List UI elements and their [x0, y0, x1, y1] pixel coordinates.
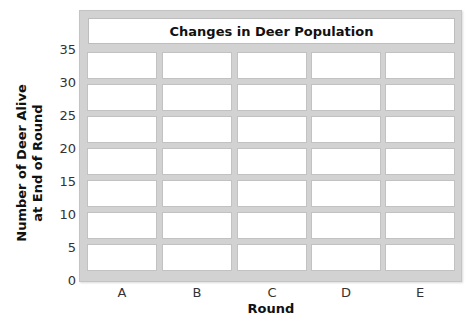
- y-tick-label: 35: [40, 43, 76, 57]
- grid-cell: [237, 52, 307, 79]
- grid-cell: [385, 148, 455, 175]
- grid-cell: [385, 52, 455, 79]
- grid-cell: [87, 84, 157, 111]
- grid-cell: [87, 180, 157, 207]
- grid-cell: [237, 244, 307, 271]
- chart-title: Changes in Deer Population: [88, 18, 455, 44]
- y-tick-label: 0: [40, 274, 76, 288]
- grid-cell: [311, 52, 381, 79]
- grid-cell: [162, 116, 232, 143]
- grid-cell: [385, 116, 455, 143]
- grid-cell: [311, 148, 381, 175]
- grid-cell: [87, 116, 157, 143]
- grid-cell: [87, 148, 157, 175]
- grid-cell: [87, 244, 157, 271]
- grid-cell: [385, 212, 455, 239]
- grid-cell: [237, 212, 307, 239]
- grid-cell: [162, 84, 232, 111]
- grid-cell: [87, 52, 157, 79]
- grid-cell: [311, 84, 381, 111]
- grid-cell: [311, 212, 381, 239]
- grid-cell: [237, 180, 307, 207]
- grid-cell: [237, 84, 307, 111]
- grid-cell: [87, 212, 157, 239]
- grid-cell: [162, 244, 232, 271]
- x-tick-label: C: [237, 285, 307, 300]
- grid-cell: [162, 212, 232, 239]
- grid-cell: [237, 116, 307, 143]
- grid-cell: [162, 52, 232, 79]
- grid-cell: [237, 148, 307, 175]
- chart-frame: [79, 10, 462, 282]
- grid-cell: [385, 244, 455, 271]
- grid-cell: [311, 244, 381, 271]
- y-axis-label-line-1: Number of Deer Alive: [14, 78, 30, 248]
- grid-cell: [311, 180, 381, 207]
- y-axis-label-line-2: at End of Round: [30, 78, 46, 248]
- grid-cell: [385, 180, 455, 207]
- x-tick-label: D: [311, 285, 381, 300]
- x-tick-label: A: [87, 285, 157, 300]
- x-tick-label: E: [385, 285, 455, 300]
- grid-cell: [162, 180, 232, 207]
- grid-cell: [311, 116, 381, 143]
- x-tick-label: B: [162, 285, 232, 300]
- grid-cell: [385, 84, 455, 111]
- y-axis-label: Number of Deer Alive at End of Round: [14, 78, 46, 248]
- grid-cell: [162, 148, 232, 175]
- x-axis-label: Round: [87, 301, 455, 316]
